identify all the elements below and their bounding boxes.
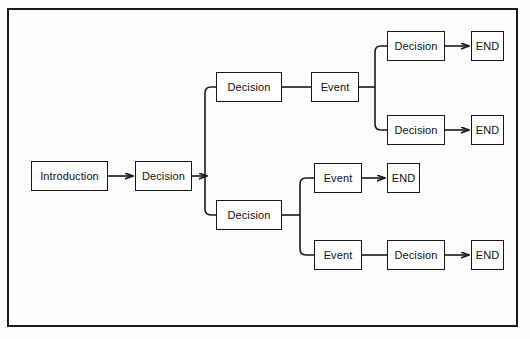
edge-lower-decision-to-event-bottom bbox=[300, 215, 314, 255]
node-introduction[interactable]: Introduction bbox=[31, 161, 108, 191]
node-label: END bbox=[476, 124, 500, 135]
edge-event-to-decision-top bbox=[375, 46, 387, 87]
node-label: Decision bbox=[228, 209, 271, 220]
node-event-upper[interactable]: Event bbox=[311, 72, 359, 102]
node-end-2[interactable]: END bbox=[471, 115, 504, 145]
node-end-4[interactable]: END bbox=[471, 240, 504, 270]
node-label: Event bbox=[324, 172, 353, 183]
node-label: Decision bbox=[395, 249, 438, 260]
node-label: Decision bbox=[228, 81, 271, 92]
node-label: Event bbox=[321, 81, 350, 92]
node-event-third-branch[interactable]: Event bbox=[314, 163, 362, 193]
flowchart-canvas: Introduction Decision Decision Event Dec… bbox=[0, 0, 530, 339]
node-event-fourth-branch[interactable]: Event bbox=[314, 240, 362, 270]
node-decision-top-branch[interactable]: Decision bbox=[387, 31, 445, 61]
node-label: Decision bbox=[395, 40, 438, 51]
node-decision-upper[interactable]: Decision bbox=[216, 72, 282, 102]
node-label: END bbox=[476, 40, 500, 51]
edge-event-to-decision-second bbox=[375, 87, 387, 130]
node-decision-lower[interactable]: Decision bbox=[216, 200, 282, 230]
flowchart-screenshot: Introduction Decision Decision Event Dec… bbox=[0, 0, 530, 339]
node-decision-fourth-branch[interactable]: Decision bbox=[387, 240, 445, 270]
node-label: Introduction bbox=[40, 170, 99, 181]
node-label: Decision bbox=[142, 170, 185, 181]
node-label: END bbox=[476, 249, 500, 260]
edge-decision-to-upper-decision bbox=[205, 87, 216, 176]
node-label: END bbox=[392, 172, 416, 183]
edge-lower-decision-to-event-top bbox=[300, 178, 314, 215]
node-end-3[interactable]: END bbox=[387, 163, 420, 193]
node-label: Event bbox=[324, 249, 353, 260]
edge-decision-to-lower-decision bbox=[205, 176, 216, 215]
node-decision-root[interactable]: Decision bbox=[135, 161, 192, 191]
node-label: Decision bbox=[395, 124, 438, 135]
node-decision-second-branch[interactable]: Decision bbox=[387, 115, 445, 145]
node-end-1[interactable]: END bbox=[471, 31, 504, 61]
